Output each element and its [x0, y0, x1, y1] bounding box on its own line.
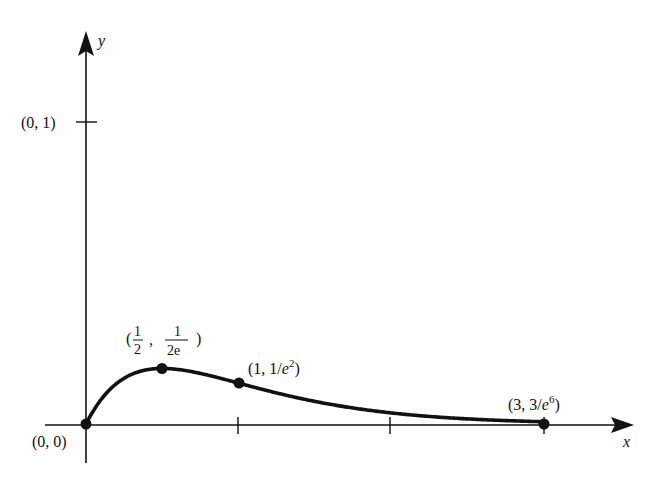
maximum-label: ( 1 2 , 1 2e ): [126, 324, 201, 358]
point-x1: [234, 378, 245, 389]
origin-label: (0, 0): [32, 433, 67, 451]
y-tick-label: (0, 1): [21, 114, 56, 132]
figure-canvas: y x (0, 1) (0, 0) ( 1 2 , 1 2e ) (1, 1/e…: [0, 0, 656, 480]
svg-text:1: 1: [134, 324, 141, 339]
svg-text:2e: 2e: [167, 343, 180, 358]
svg-text:1: 1: [174, 324, 181, 339]
svg-text:,: ,: [149, 331, 153, 348]
point-x1-label: (1, 1/e2): [248, 357, 300, 378]
x-axis-label: x: [622, 433, 630, 450]
svg-text:2: 2: [134, 342, 141, 357]
y-axis-label: y: [96, 32, 106, 50]
point-x3-label: (3, 3/e6): [508, 393, 560, 414]
function-curve: [86, 368, 544, 424]
point-origin: [81, 419, 92, 430]
svg-text:): ): [196, 330, 201, 348]
point-x3: [539, 419, 550, 430]
svg-text:(: (: [126, 330, 131, 348]
point-maximum: [157, 363, 168, 374]
